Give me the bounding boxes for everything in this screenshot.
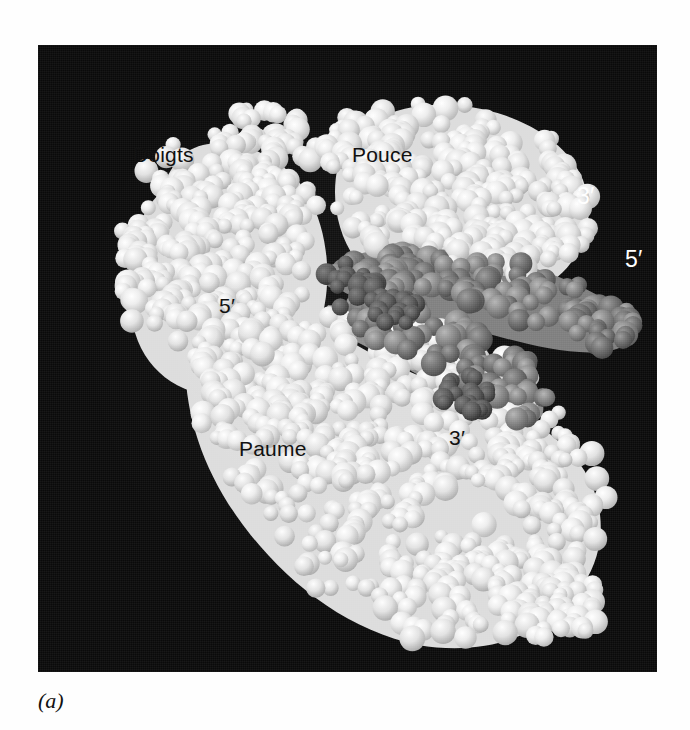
label-thumb: Pouce: [352, 144, 413, 165]
label-3prime-dna-end: 3′: [577, 185, 595, 208]
molecular-model-photo: Doigts Pouce Paume 5′ 3′ 3′ 5′: [38, 45, 657, 672]
label-fingers: Doigts: [133, 144, 194, 165]
space-filling-model: [38, 45, 657, 672]
label-3prime-primer: 3′: [449, 427, 465, 448]
figure-caption-a: (a): [38, 688, 64, 714]
label-palm: Paume: [239, 438, 307, 459]
figure-root: Doigts Pouce Paume 5′ 3′ 3′ 5′ (a): [0, 0, 690, 730]
molecule-svg: [38, 45, 657, 672]
label-5prime-dna-end: 5′: [625, 248, 643, 271]
label-5prime-template: 5′: [219, 295, 235, 316]
